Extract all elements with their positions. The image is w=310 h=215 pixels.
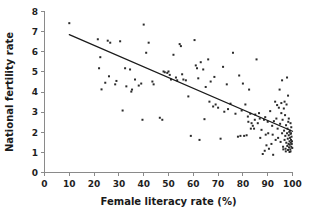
data-point: [277, 128, 279, 130]
data-point: [291, 136, 293, 138]
data-point: [237, 136, 239, 138]
data-point: [252, 125, 254, 127]
data-point: [277, 137, 279, 139]
data-point: [124, 67, 126, 69]
data-point: [232, 52, 234, 54]
data-point: [210, 81, 212, 83]
data-point: [168, 70, 170, 72]
data-point: [246, 134, 248, 136]
x-tick-label-0: 0: [41, 179, 47, 189]
data-point: [119, 40, 121, 42]
data-point: [267, 132, 269, 134]
x-tick-label-90: 90: [261, 179, 274, 189]
data-point: [169, 74, 171, 76]
data-point: [143, 24, 145, 26]
data-point: [282, 148, 284, 150]
data-point: [213, 76, 215, 78]
data-point: [261, 129, 263, 131]
data-points-group: [68, 22, 293, 156]
x-tick-label-50: 50: [162, 179, 175, 189]
data-point: [253, 128, 255, 130]
data-point: [212, 105, 214, 107]
y-tick-label-0: 0: [32, 168, 38, 178]
data-point: [200, 61, 202, 63]
data-point: [256, 58, 258, 60]
x-tick-label-40: 40: [137, 179, 150, 189]
data-point: [250, 128, 252, 130]
data-point: [264, 150, 266, 152]
data-point: [284, 114, 286, 116]
data-point: [285, 148, 287, 150]
data-point: [276, 104, 278, 106]
data-point: [287, 138, 289, 140]
scatter-chart-figure: 0102030405060708090100012345678Female li…: [0, 0, 310, 215]
data-point: [278, 107, 280, 109]
y-tick-label-5: 5: [32, 67, 38, 77]
data-point: [115, 80, 117, 82]
data-point: [285, 124, 287, 126]
data-point: [284, 139, 286, 141]
data-point: [242, 83, 244, 85]
data-point: [279, 89, 281, 91]
y-tick-label-2: 2: [32, 128, 38, 138]
data-point: [288, 134, 290, 136]
data-point: [281, 79, 283, 81]
x-tick-label-20: 20: [88, 179, 101, 189]
y-tick-label-1: 1: [32, 148, 38, 158]
data-point: [138, 85, 140, 87]
data-point: [129, 68, 131, 70]
data-point: [270, 143, 272, 145]
data-point: [205, 86, 207, 88]
data-point: [114, 83, 116, 85]
data-point: [248, 89, 250, 91]
data-point: [283, 130, 285, 132]
y-axis-title: National fertility rate: [4, 32, 15, 152]
data-point: [107, 40, 109, 42]
data-point: [288, 146, 290, 148]
data-point: [151, 81, 153, 83]
data-point: [227, 108, 229, 110]
data-point: [153, 83, 155, 85]
y-tick-label-7: 7: [32, 27, 38, 37]
data-point: [187, 95, 189, 97]
data-point: [195, 64, 197, 66]
data-point: [290, 126, 292, 128]
data-point: [279, 123, 281, 125]
data-point: [98, 67, 100, 69]
data-point: [161, 119, 163, 121]
data-point: [282, 119, 284, 121]
data-point: [286, 77, 288, 79]
data-point: [284, 101, 286, 103]
regression-line: [69, 35, 292, 132]
data-point: [185, 79, 187, 81]
axes-group: [41, 12, 293, 177]
data-point: [145, 52, 147, 54]
data-point: [271, 125, 273, 127]
data-point: [226, 83, 228, 85]
x-axis-title: Female literacy rate (%): [101, 196, 237, 207]
data-point: [243, 135, 245, 137]
data-point: [244, 103, 246, 105]
data-point: [130, 91, 132, 93]
data-point: [275, 118, 277, 120]
data-point: [285, 150, 287, 152]
data-point: [282, 146, 284, 148]
data-point: [108, 75, 110, 77]
data-point: [286, 145, 288, 147]
data-point: [182, 79, 184, 81]
data-point: [134, 79, 136, 81]
data-point: [291, 147, 293, 149]
data-point: [234, 113, 236, 115]
data-point: [68, 22, 70, 24]
data-point: [281, 132, 283, 134]
data-point: [131, 89, 133, 91]
data-point: [239, 135, 241, 137]
data-point: [286, 103, 288, 105]
data-point: [268, 148, 270, 150]
data-point: [287, 149, 289, 151]
data-point: [265, 144, 267, 146]
data-point: [220, 138, 222, 140]
data-point: [172, 54, 174, 56]
data-point: [290, 150, 292, 152]
y-tick-label-4: 4: [32, 87, 38, 97]
